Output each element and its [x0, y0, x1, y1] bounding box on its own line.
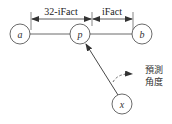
- dimension-label-left: 32-iFact: [44, 6, 78, 17]
- annotation-line-2: 角度: [145, 76, 163, 87]
- node-x: x: [112, 94, 132, 114]
- prediction-arrow: [86, 44, 118, 95]
- node-b-label: b: [140, 29, 145, 40]
- node-b: b: [132, 24, 152, 44]
- prediction-diagram: 32-iFact iFact a p b x 預測 角度: [0, 0, 172, 124]
- node-a: a: [10, 24, 30, 44]
- node-x-label: x: [119, 99, 125, 110]
- angle-arc: [113, 74, 132, 82]
- annotation-line-1: 預測: [145, 64, 163, 75]
- node-a-label: a: [18, 29, 23, 40]
- node-p: p: [70, 24, 90, 44]
- dimension-label-right: iFact: [102, 6, 122, 17]
- node-p-label: p: [77, 29, 83, 40]
